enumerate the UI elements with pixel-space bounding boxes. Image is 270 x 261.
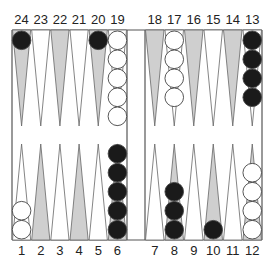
black-checker[interactable] — [204, 220, 223, 239]
point-label-1: 1 — [18, 243, 25, 258]
point-label-14: 14 — [226, 12, 240, 27]
white-checker[interactable] — [165, 69, 184, 88]
point-label-16: 16 — [187, 12, 201, 27]
white-checker[interactable] — [243, 182, 262, 201]
black-checker[interactable] — [108, 220, 127, 239]
white-checker[interactable] — [12, 201, 31, 220]
point-label-9: 9 — [190, 243, 197, 258]
white-checker[interactable] — [108, 69, 127, 88]
white-checker[interactable] — [165, 31, 184, 50]
black-checker[interactable] — [243, 88, 262, 107]
white-checker[interactable] — [108, 50, 127, 69]
point-label-22: 22 — [53, 12, 67, 27]
point-label-12: 12 — [245, 243, 259, 258]
point-label-19: 19 — [110, 12, 124, 27]
black-checker[interactable] — [12, 31, 31, 50]
point-label-20: 20 — [91, 12, 105, 27]
black-checker[interactable] — [165, 182, 184, 201]
black-checker[interactable] — [89, 31, 108, 50]
white-checker[interactable] — [243, 201, 262, 220]
point-label-8: 8 — [171, 243, 178, 258]
black-checker[interactable] — [108, 182, 127, 201]
white-checker[interactable] — [108, 88, 127, 107]
point-label-13: 13 — [245, 12, 259, 27]
black-checker[interactable] — [165, 201, 184, 220]
point-label-17: 17 — [167, 12, 181, 27]
point-label-18: 18 — [148, 12, 162, 27]
black-checker[interactable] — [108, 201, 127, 220]
black-checker[interactable] — [165, 220, 184, 239]
point-label-24: 24 — [14, 12, 28, 27]
point-label-10: 10 — [206, 243, 220, 258]
point-label-21: 21 — [72, 12, 86, 27]
black-checker[interactable] — [243, 69, 262, 88]
point-label-11: 11 — [226, 243, 240, 258]
board-canvas: 242322212019181716151413123456789101112 — [0, 0, 270, 261]
white-checker[interactable] — [12, 220, 31, 239]
black-checker[interactable] — [108, 163, 127, 182]
point-label-3: 3 — [56, 243, 63, 258]
black-checker[interactable] — [243, 31, 262, 50]
point-label-6: 6 — [114, 243, 121, 258]
white-checker[interactable] — [165, 50, 184, 69]
white-checker[interactable] — [108, 31, 127, 50]
white-checker[interactable] — [243, 163, 262, 182]
white-checker[interactable] — [165, 88, 184, 107]
white-checker[interactable] — [108, 107, 127, 126]
point-label-4: 4 — [75, 243, 82, 258]
white-checker[interactable] — [243, 220, 262, 239]
point-label-23: 23 — [34, 12, 48, 27]
point-label-5: 5 — [95, 243, 102, 258]
black-checker[interactable] — [108, 144, 127, 163]
point-label-2: 2 — [37, 243, 44, 258]
point-label-7: 7 — [151, 243, 158, 258]
black-checker[interactable] — [243, 50, 262, 69]
backgammon-board: 242322212019181716151413123456789101112 — [0, 0, 270, 261]
point-label-15: 15 — [206, 12, 220, 27]
